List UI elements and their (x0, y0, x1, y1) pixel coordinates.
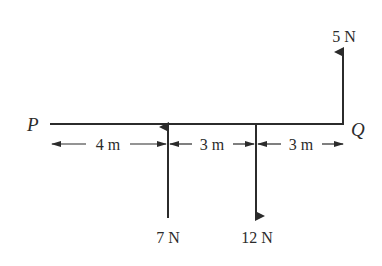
dimension-3m-right-label: 3 m (289, 136, 314, 153)
dimension-3m-right: 3 m (258, 136, 343, 153)
beam-force-diagram: P Q 5 N 7 N 12 N 4 m 3 m 3 m (0, 0, 382, 266)
label-p: P (26, 114, 39, 135)
force-5n-label: 5 N (332, 28, 356, 45)
dimension-3m-middle: 3 m (170, 136, 254, 153)
label-q: Q (351, 119, 365, 140)
dimension-3m-middle-label: 3 m (200, 136, 225, 153)
dimension-4m: 4 m (52, 136, 166, 153)
force-7n-label: 7 N (156, 229, 180, 246)
force-12n-label: 12 N (241, 229, 273, 246)
dimension-4m-label: 4 m (96, 136, 121, 153)
